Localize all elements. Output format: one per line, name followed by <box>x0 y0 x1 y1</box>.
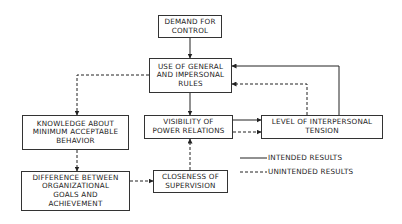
node-use-of-general-rules: USE OF GENERAL AND IMPERSONAL RULES <box>149 58 232 93</box>
node-visibility-power-relations: VISIBILITY OF POWER RELATIONS <box>144 115 233 139</box>
arrow-tension-to-rules-dashed <box>232 84 307 115</box>
node-demand-for-control: DEMAND FOR CONTROL <box>158 15 222 38</box>
node-difference-goals-achievement: DIFFERENCE BETWEEN ORGANIZATIONAL GOALS … <box>21 171 130 211</box>
legend-intended-label: INTENDED RESULTS <box>268 153 342 162</box>
node-level-interpersonal-tension: LEVEL OF INTERPERSONAL TENSION <box>261 115 383 139</box>
node-closeness-of-supervision: CLOSENESS OF SUPERVISION <box>153 170 228 193</box>
arrow-tension-to-rules-solid <box>232 66 339 115</box>
arrow-rules-to-knowledge <box>77 75 149 115</box>
node-knowledge-minimum-behavior: KNOWLEDGE ABOUT MINIMUM ACCEPTABLE BEHAV… <box>22 115 129 150</box>
legend-unintended-label: UNINTENDED RESULTS <box>268 167 353 176</box>
